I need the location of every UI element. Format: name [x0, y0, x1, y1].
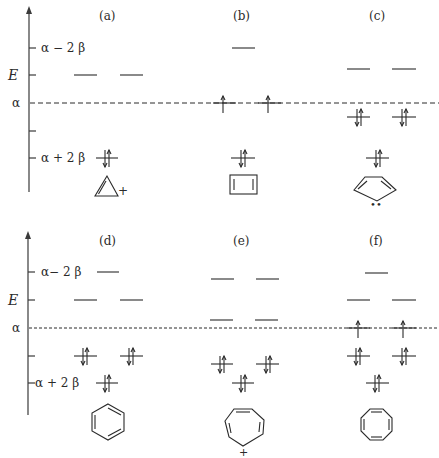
- axis-label-alpha-plus-2beta: α + 2 β: [35, 376, 79, 390]
- axis-arrow-icon: [26, 6, 32, 14]
- panel-f: (f): [347, 234, 416, 440]
- panel-label: (b): [233, 9, 250, 23]
- panel-e: (e): [210, 234, 279, 458]
- panel-label: (e): [233, 234, 249, 248]
- lone-pair-dots: ••: [370, 199, 382, 210]
- charge-plus: +: [239, 446, 248, 458]
- panel-label: (f): [369, 234, 383, 248]
- single-electron-icon: [356, 321, 360, 338]
- axis-label-alpha: α: [12, 321, 20, 335]
- panel-label: (a): [99, 9, 116, 23]
- single-electron-icon: [266, 96, 270, 113]
- axis-label-energy: E: [7, 292, 18, 308]
- panel-a: (a) +: [74, 9, 143, 198]
- cyclooctatetraene-icon: [361, 409, 392, 440]
- axis-label-energy: E: [7, 67, 18, 83]
- axis-label-alpha: α: [12, 96, 20, 110]
- single-electron-icon: [221, 96, 225, 113]
- cyclopentadienyl-anion-icon: [354, 177, 396, 201]
- top-panel: α − 2 β E α α + 2 β (a) + (b): [7, 6, 439, 210]
- panel-d: (d): [74, 234, 143, 440]
- panel-label: (d): [99, 234, 116, 248]
- panel-label: (c): [369, 9, 385, 23]
- panel-b: (b): [213, 9, 281, 194]
- single-electron-icon: [401, 321, 405, 338]
- axis-label-alpha-plus-2beta: α + 2 β: [41, 151, 85, 165]
- axis-label-alpha-minus-2beta: α− 2 β: [41, 265, 81, 279]
- bottom-panel: α− 2 β E α α + 2 β (d): [7, 231, 439, 458]
- huckel-mo-diagram: α − 2 β E α α + 2 β (a) + (b): [0, 0, 439, 458]
- benzene-icon: [92, 404, 124, 440]
- axis-label-alpha-minus-2beta: α − 2 β: [41, 41, 85, 55]
- cyclobutadiene-icon: [230, 175, 257, 194]
- cyclopropenyl-cation-icon: [95, 176, 118, 196]
- axis-arrow-icon: [25, 231, 31, 239]
- charge-plus: +: [118, 184, 128, 198]
- tropylium-cation-icon: [225, 409, 264, 446]
- panel-c: (c) ••: [347, 9, 416, 210]
